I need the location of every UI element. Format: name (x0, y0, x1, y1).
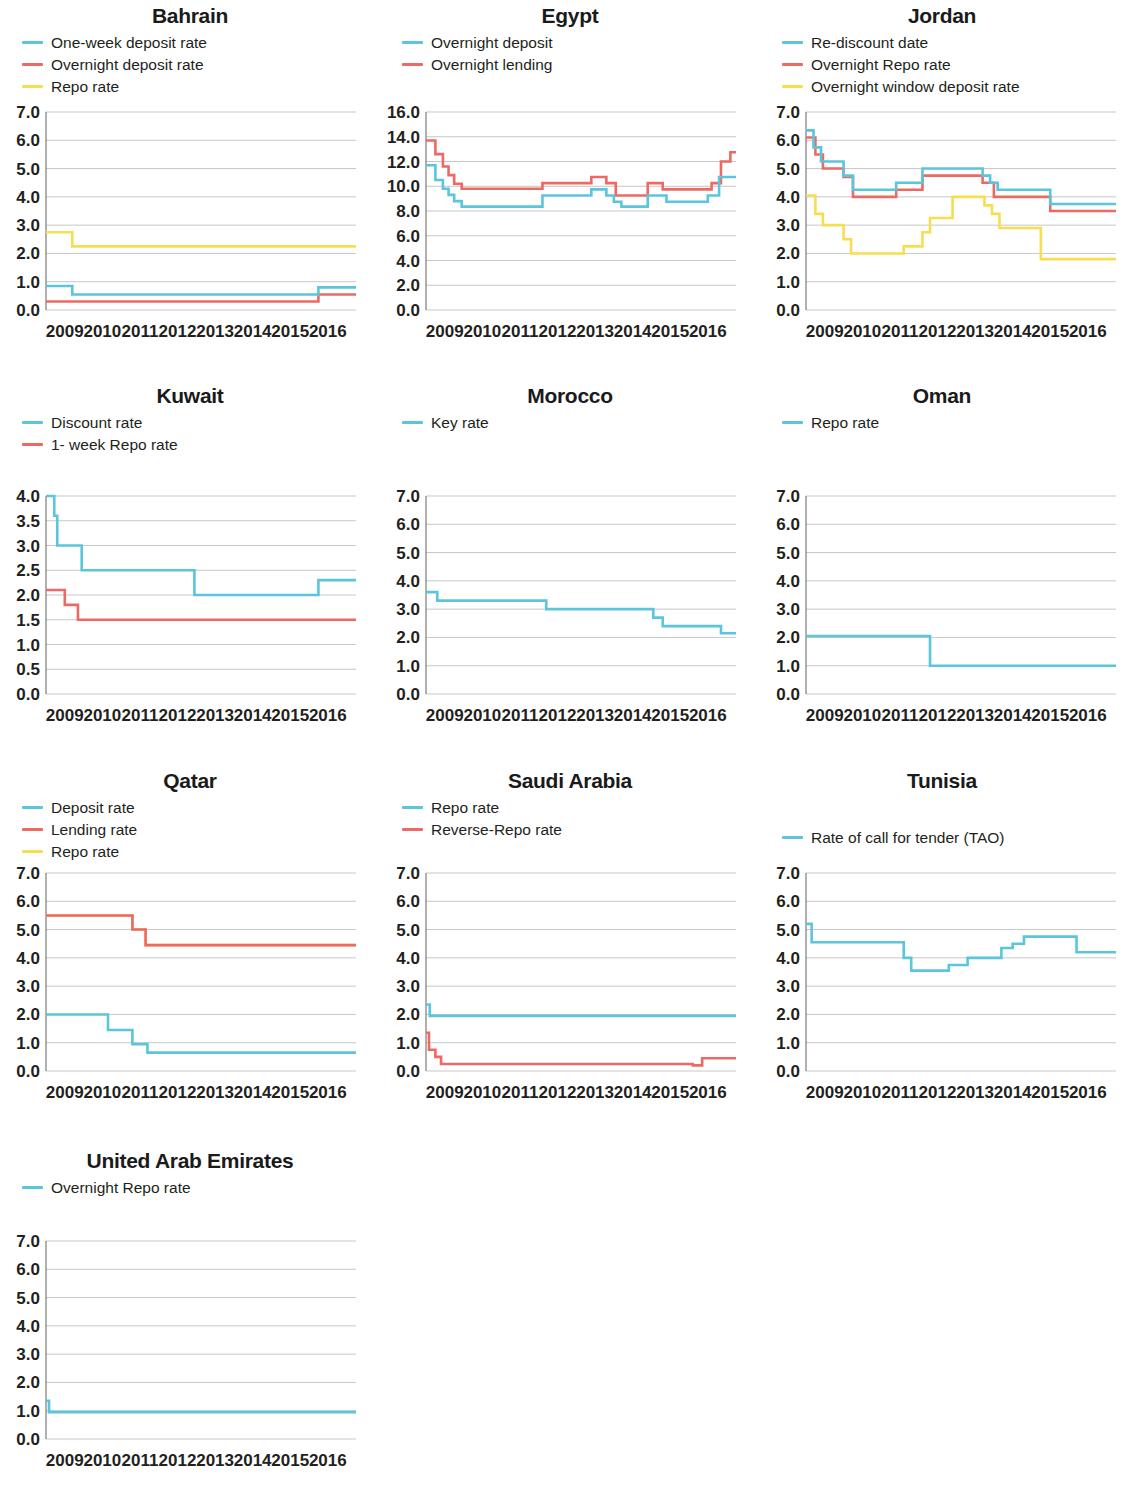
plot-area: 0.02.04.06.08.010.012.014.016.0200920102… (380, 104, 760, 354)
series-line (46, 915, 356, 945)
panel-title: Tunisia (760, 765, 1124, 793)
panel-title: Oman (760, 380, 1124, 408)
x-axis-tick-label: 2015 (1031, 1083, 1069, 1102)
chart-svg: 0.02.04.06.08.010.012.014.016.0200920102… (380, 104, 744, 354)
y-axis-tick-label: 4.0 (396, 572, 420, 591)
legend-item[interactable]: Overnight window deposit rate (782, 78, 962, 95)
x-axis-tick-label: 2009 (806, 322, 844, 341)
panel-oman: Oman Repo rate 0.01.02.03.04.05.06.07.02… (760, 380, 1124, 765)
x-axis-tick-label: 2016 (309, 1451, 347, 1470)
legend-label: Overnight Repo rate (811, 56, 951, 73)
legend-item[interactable]: Overnight deposit rate (22, 56, 202, 73)
x-axis-tick-label: 2010 (463, 322, 501, 341)
x-axis-tick-label: 2012 (159, 1451, 197, 1470)
legend-color-swatch (22, 85, 43, 89)
x-axis-tick-label: 2010 (83, 322, 121, 341)
panel-kuwait: Kuwait Discount rate1- week Repo rate 0.… (0, 380, 380, 765)
legend-label: Overnight Repo rate (51, 1179, 191, 1196)
panel-title: Bahrain (0, 0, 380, 28)
legend-color-swatch (22, 850, 43, 854)
y-axis-tick-label: 0.0 (776, 1062, 800, 1081)
panel-title: Egypt (380, 0, 760, 28)
panel-saudi-arabia: Saudi Arabia Repo rateReverse-Repo rate … (380, 765, 760, 1145)
x-axis-tick-label: 2015 (1031, 706, 1069, 725)
legend-item[interactable]: 1- week Repo rate (22, 436, 380, 453)
y-axis-tick-label: 2.0 (16, 1373, 40, 1392)
plot-area: 0.01.02.03.04.05.06.07.02009201020112012… (380, 865, 760, 1115)
y-axis-tick-label: 3.0 (776, 600, 800, 619)
x-axis-tick-label: 2014 (994, 706, 1032, 725)
y-axis-tick-label: 7.0 (396, 865, 420, 883)
x-axis-tick-label: 2010 (463, 706, 501, 725)
x-axis-tick-label: 2009 (46, 1083, 84, 1102)
y-axis-tick-label: 4.0 (776, 572, 800, 591)
x-axis-tick-label: 2014 (234, 706, 272, 725)
y-axis-tick-label: 2.0 (396, 1005, 420, 1024)
panel-bahrain: Bahrain One-week deposit rateOvernight d… (0, 0, 380, 380)
y-axis-tick-label: 7.0 (396, 488, 420, 506)
y-axis-tick-label: 0.0 (16, 301, 40, 320)
y-axis-tick-label: 4.0 (16, 949, 40, 968)
y-axis-tick-label: 2.0 (776, 1005, 800, 1024)
y-axis-tick-label: 7.0 (16, 104, 40, 122)
x-axis-tick-label: 2015 (271, 706, 309, 725)
y-axis-tick-label: 0.0 (16, 1430, 40, 1449)
y-axis-tick-label: 1.0 (16, 273, 40, 292)
y-axis-tick-label: 14.0 (387, 128, 420, 147)
legend-item[interactable]: Deposit rate (22, 799, 202, 816)
y-axis-tick-label: 0.0 (396, 685, 420, 704)
legend-item[interactable]: Discount rate (22, 414, 380, 431)
y-axis-tick-label: 5.0 (16, 1289, 40, 1308)
legend-color-swatch (402, 806, 423, 810)
legend-label: One-week deposit rate (51, 34, 207, 51)
panel-qatar: Qatar Deposit rateLending rateRepo rate … (0, 765, 380, 1145)
y-axis-tick-label: 4.0 (396, 252, 420, 271)
x-axis-tick-label: 2011 (881, 322, 918, 341)
legend-label: Repo rate (51, 843, 119, 860)
x-axis-tick-label: 2011 (501, 322, 538, 341)
legend-item[interactable]: Reverse-Repo rate (402, 821, 760, 838)
x-axis-tick-label: 2014 (614, 706, 652, 725)
legend-item[interactable]: Repo rate (402, 799, 760, 816)
x-axis-tick-label: 2015 (651, 706, 689, 725)
x-axis-tick-label: 2012 (539, 322, 577, 341)
y-axis-tick-label: 5.0 (396, 544, 420, 563)
legend-item[interactable]: Overnight Repo rate (22, 1179, 380, 1196)
y-axis-tick-label: 4.0 (16, 188, 40, 207)
y-axis-tick-label: 12.0 (387, 153, 420, 172)
x-axis-tick-label: 2015 (651, 1083, 689, 1102)
legend-color-swatch (782, 41, 803, 45)
legend-item[interactable]: Rate of call for tender (TAO) (782, 829, 1124, 846)
x-axis-tick-label: 2011 (881, 1083, 918, 1102)
legend-item[interactable]: Overnight lending (402, 56, 760, 73)
x-axis-tick-label: 2011 (501, 1083, 538, 1102)
x-axis-tick-label: 2012 (539, 1083, 577, 1102)
legend-item[interactable]: Repo rate (782, 414, 1124, 431)
x-axis-tick-label: 2016 (309, 322, 347, 341)
legend-color-swatch (22, 63, 43, 67)
legend-label: Repo rate (811, 414, 879, 431)
legend-item[interactable]: Repo rate (22, 843, 202, 860)
x-axis-tick-label: 2010 (83, 1451, 121, 1470)
legend-item[interactable]: Lending rate (22, 821, 202, 838)
panel-title: Kuwait (0, 380, 380, 408)
x-axis-tick-label: 2014 (614, 322, 652, 341)
y-axis-tick-label: 6.0 (776, 131, 800, 150)
y-axis-tick-label: 6.0 (16, 892, 40, 911)
panel-egypt: Egypt Overnight depositOvernight lending… (380, 0, 760, 380)
legend-item[interactable]: One-week deposit rate (22, 34, 202, 51)
y-axis-tick-label: 7.0 (776, 104, 800, 122)
legend-item[interactable]: Overnight Repo rate (782, 56, 962, 73)
legend-item[interactable]: Overnight deposit (402, 34, 760, 51)
y-axis-tick-label: 6.0 (776, 515, 800, 534)
series-line (806, 924, 1116, 971)
legend-color-swatch (402, 828, 423, 832)
legend-item[interactable]: Repo rate (22, 78, 202, 95)
x-axis-tick-label: 2011 (121, 1083, 158, 1102)
x-axis-tick-label: 2016 (689, 706, 727, 725)
legend-item[interactable]: Re-discount date (782, 34, 962, 51)
y-axis-tick-label: 0.0 (776, 301, 800, 320)
panel-title: Morocco (380, 380, 760, 408)
legend-item[interactable]: Key rate (402, 414, 760, 431)
y-axis-tick-label: 7.0 (16, 1233, 40, 1251)
